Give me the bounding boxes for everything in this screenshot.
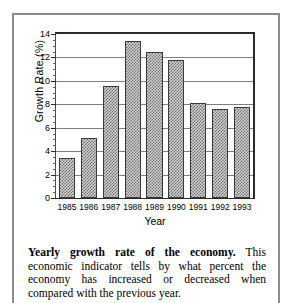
- bar-slot: 1987: [100, 34, 122, 198]
- figure-caption: Yearly growth rate of the economy. This …: [28, 246, 266, 300]
- y-tick-label: 2: [45, 170, 50, 180]
- y-tick-label: 0: [45, 193, 50, 203]
- bar-slot: 1989: [144, 34, 166, 198]
- bar: [168, 60, 184, 198]
- bar-slot: 1992: [209, 34, 231, 198]
- x-tick-label: 1985: [57, 202, 76, 212]
- bar: [81, 138, 97, 198]
- bar-slot: 1993: [231, 34, 253, 198]
- x-tick-label: 1993: [233, 202, 252, 212]
- x-tick-label: 1988: [123, 202, 142, 212]
- caption-lead: Yearly growth rate of the economy.: [28, 246, 236, 258]
- bar: [190, 103, 206, 198]
- bar-slot: 1985: [56, 34, 78, 198]
- y-tick-label: 12: [40, 52, 50, 62]
- y-tick-label: 10: [40, 76, 50, 86]
- x-axis-label: Year: [55, 215, 255, 227]
- bar: [146, 52, 162, 198]
- x-tick-label: 1990: [167, 202, 186, 212]
- bar-chart: Growth Rate (%) 02468101214 198519861987…: [14, 15, 278, 237]
- bar-slot: 1991: [187, 34, 209, 198]
- y-tick-label: 4: [45, 146, 50, 156]
- x-tick-label: 1989: [145, 202, 164, 212]
- bar: [103, 86, 119, 198]
- x-tick-label: 1992: [211, 202, 230, 212]
- y-tick-mark: [51, 198, 56, 199]
- figure-panel: Growth Rate (%) 02468101214 198519861987…: [12, 13, 280, 303]
- bar: [125, 41, 141, 198]
- bar: [234, 107, 250, 198]
- bar: [59, 158, 75, 198]
- bar-slot: 1990: [165, 34, 187, 198]
- x-tick-label: 1991: [189, 202, 208, 212]
- x-tick-label: 1986: [79, 202, 98, 212]
- x-tick-label: 1987: [101, 202, 120, 212]
- y-tick-label: 6: [45, 123, 50, 133]
- bar-series: 198519861987198819891990199119921993: [56, 34, 253, 198]
- bar-slot: 1986: [78, 34, 100, 198]
- plot-area: 02468101214 1985198619871988198919901991…: [55, 32, 255, 199]
- y-tick-label: 8: [45, 99, 50, 109]
- bar: [212, 109, 228, 198]
- y-tick-label: 14: [40, 29, 50, 39]
- bar-slot: 1988: [122, 34, 144, 198]
